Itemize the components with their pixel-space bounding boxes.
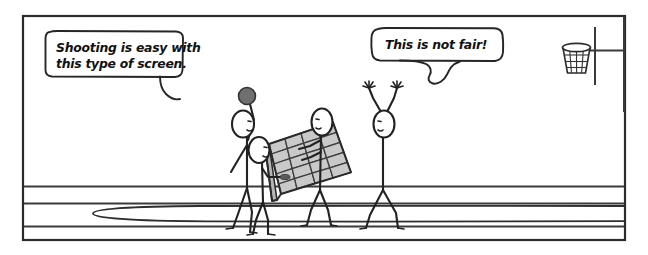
basketball	[239, 88, 256, 105]
speech-bubble-2-line1: This is not fair!	[385, 37, 487, 52]
defender-head	[374, 111, 395, 138]
holder-right-foot-front	[331, 225, 337, 226]
holder-right-eye	[316, 119, 319, 120]
holder-left-head	[249, 137, 270, 163]
holder-left-grip	[280, 174, 290, 179]
holder-right-torso	[320, 135, 321, 190]
cartoon-scene: Shooting is easy with this type of scree…	[0, 0, 648, 255]
hoop-rim	[563, 43, 591, 51]
speech-bubble-1-line2: this type of screen.	[56, 56, 187, 71]
speech-bubble-1-line1: Shooting is easy with	[56, 40, 201, 55]
defender-foot-right	[398, 228, 404, 229]
holder-right-head	[312, 109, 333, 136]
holder-left-eye	[264, 147, 267, 148]
holder-left-foot-back	[247, 234, 253, 235]
holder-right-foot-back	[301, 225, 307, 226]
cartoon-panel: Shooting is easy with this type of scree…	[0, 0, 648, 255]
shooter-eye	[248, 121, 251, 122]
defender-foot-left	[360, 228, 366, 229]
shooter-foot-left	[226, 228, 233, 229]
shooter-head	[232, 111, 254, 138]
holder-left-foot-front	[268, 234, 275, 235]
defender-eye	[378, 121, 381, 122]
